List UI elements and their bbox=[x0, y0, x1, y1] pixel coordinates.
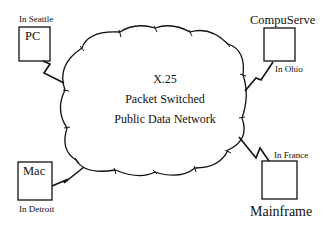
pc-location: In Seattle bbox=[19, 15, 53, 24]
mainframe-location: In France bbox=[274, 151, 308, 160]
network-title: X.25 bbox=[90, 73, 240, 85]
network-description: Public Data Network bbox=[90, 113, 240, 125]
pc-label: PC bbox=[25, 30, 40, 43]
compuserve-location: In Ohio bbox=[275, 65, 303, 74]
mac-label: Mac bbox=[23, 165, 45, 178]
compuserve-label: CompuServe bbox=[250, 14, 315, 27]
mainframe-label: Mainframe bbox=[250, 205, 312, 219]
pc-link bbox=[43, 61, 64, 83]
network-subtitle: Packet Switched bbox=[90, 93, 240, 105]
mainframe-box[interactable] bbox=[262, 161, 297, 199]
compuserve-box[interactable] bbox=[264, 28, 295, 61]
mainframe-link bbox=[239, 137, 269, 161]
compuserve-link bbox=[245, 62, 273, 91]
mac-link bbox=[52, 167, 84, 186]
mac-location: In Detroit bbox=[19, 205, 54, 214]
